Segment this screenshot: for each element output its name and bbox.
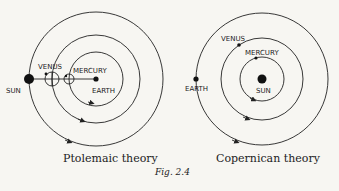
arrow-icon — [88, 102, 92, 103]
label-earth: EARTH — [92, 87, 115, 95]
diagram-canvas: VENUS MERCURY SUN EARTH Ptolemaic theory… — [0, 0, 339, 191]
venus-dot-icon — [45, 73, 48, 76]
copernican-title: Copernican theory — [216, 152, 321, 165]
earth-dot-icon — [93, 76, 98, 81]
mercury-dot-icon — [65, 75, 67, 77]
label-mercury: MERCURY — [73, 67, 107, 75]
sun-dot-icon — [24, 74, 34, 84]
label-venus: VENUS — [221, 35, 246, 43]
label-venus: VENUS — [38, 63, 63, 71]
arrow-icon — [232, 140, 237, 142]
earth-dot-icon — [193, 76, 198, 81]
arrow-icon — [78, 119, 83, 121]
ptolemaic-title: Ptolemaic theory — [63, 152, 159, 165]
label-mercury: MERCURY — [245, 49, 279, 57]
label-sun: SUN — [256, 87, 271, 95]
label-earth: EARTH — [185, 85, 208, 93]
figure-2-4: VENUS MERCURY SUN EARTH Ptolemaic theory… — [0, 0, 339, 191]
sun-dot-icon — [258, 75, 267, 84]
figure-caption: Fig. 2.4 — [154, 167, 190, 177]
venus-dot-icon — [237, 43, 241, 47]
label-sun: SUN — [6, 87, 21, 95]
